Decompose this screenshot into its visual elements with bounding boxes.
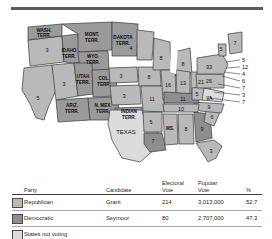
state-minnesota <box>137 30 154 60</box>
northeast-callout-values: 5 12 4 6 7 3 7 <box>242 57 248 105</box>
cell-percent-democratic: 47.3 <box>246 215 257 221</box>
cell-percent-republican: 52.7 <box>246 199 257 205</box>
vote-label-connecticut: 6 <box>242 78 245 84</box>
state-kansas <box>110 85 141 105</box>
vote-label-kansas: 3 <box>123 93 126 99</box>
vote-label-new-york: 33 <box>206 64 212 70</box>
vote-label-massachusetts: 12 <box>242 64 248 70</box>
vote-label-alabama: 8 <box>185 126 188 132</box>
vote-label-nevada: 3 <box>63 81 66 87</box>
vote-label-north-carolina: 9 <box>208 104 211 110</box>
state-nebraska <box>109 67 138 83</box>
label-dakota-territory-line1: DAKOTA <box>113 35 133 40</box>
cell-candidate-seymour: Seymour <box>106 215 129 221</box>
column-header-party: Party <box>24 187 37 193</box>
column-header-popular-vote-line2: Vote <box>198 187 217 193</box>
cell-popular-democratic: 2,707,000 <box>198 215 224 221</box>
vote-label-west-virginia: 5 <box>196 91 199 97</box>
cell-electoral-democratic: 80 <box>162 215 168 221</box>
state-new-york <box>197 54 228 74</box>
cell-states-not-voting: States not voting <box>24 231 67 237</box>
vote-label-kentucky: 11 <box>180 96 186 102</box>
vote-label-illinois: 16 <box>165 82 171 88</box>
vote-label-new-jersey: 7 <box>242 85 245 91</box>
label-wyoming-territory-line1: WYO. <box>87 54 99 59</box>
label-texas: TEXAS <box>116 129 136 135</box>
vote-label-oregon: 3 <box>46 47 49 53</box>
vote-label-new-hampshire: 5 <box>242 57 245 63</box>
column-header-electoral-vote: Electoral Vote <box>162 180 184 193</box>
cell-electoral-republican: 214 <box>162 199 172 205</box>
vote-label-arkansas: 5 <box>150 119 153 125</box>
column-header-electoral-vote-line2: Vote <box>162 187 184 193</box>
label-dakota-territory-line2: TERR. <box>116 41 130 46</box>
label-indian-territory-line2: TERR. <box>122 115 136 120</box>
column-header-electoral-vote-line1: Electoral <box>162 180 184 186</box>
column-header-percent: % <box>246 187 251 193</box>
vote-label-tennessee: 10 <box>178 106 184 112</box>
vote-label-maine: 7 <box>234 40 237 46</box>
table-row-democratic: Democratic Seymour 80 2,707,000 47.3 <box>12 211 262 226</box>
label-colorado-territory-line2: TERR. <box>97 82 111 87</box>
cell-candidate-grant: Grant <box>106 199 121 205</box>
vote-label-rhode-island: 4 <box>242 71 245 77</box>
label-utah-territory-line2: TERR. <box>76 80 90 85</box>
legend-swatch-democratic <box>12 214 23 224</box>
label-wyoming-territory-line2: TERR. <box>86 60 100 65</box>
label-montana-territory-line2: TERR. <box>85 38 99 43</box>
label-new-mexico-territory-line1: N. MEX. <box>94 103 111 108</box>
vote-label-nebraska: 3 <box>120 73 123 79</box>
label-indian-territory-line1: INDIAN <box>121 109 138 114</box>
state-wisconsin <box>153 38 171 70</box>
vote-label-south-carolina: 6 <box>211 114 214 120</box>
vote-label-minnesota: 4 <box>130 45 133 51</box>
label-new-mexico-territory-line2: TERR. <box>96 109 110 114</box>
column-header-popular-vote: Popular Vote <box>198 180 217 193</box>
legend-swatch-not-voting <box>12 230 23 239</box>
label-idaho-territory-line2: TERR. <box>62 54 76 59</box>
vote-label-delaware: 3 <box>242 92 245 98</box>
vote-label-california: 5 <box>37 95 40 101</box>
column-header-candidate: Candidate <box>106 187 132 193</box>
vote-label-wisconsin: 8 <box>160 55 163 61</box>
vote-label-vermont: 5 <box>220 46 223 52</box>
vote-label-pennsylvania: 26 <box>206 78 212 84</box>
label-montana-territory-line1: MONT. <box>85 32 99 37</box>
vote-label-florida: 3 <box>210 148 213 154</box>
top-divider-rule <box>11 7 263 10</box>
vote-label-indiana: 13 <box>180 80 186 86</box>
table-row-not-voting: States not voting <box>12 227 262 239</box>
vote-label-louisiana: 7 <box>152 138 155 144</box>
cell-party-democratic: Democratic <box>24 215 53 221</box>
vote-label-maryland: 7 <box>242 99 245 105</box>
table-row-republican: Republican Grant 214 3,013,000 52.7 <box>12 195 262 210</box>
state-arkansas <box>143 112 162 132</box>
column-header-popular-vote-line1: Popular <box>198 180 217 186</box>
label-utah-territory-line1: UTAH <box>77 74 90 79</box>
results-table: Party Candidate Electoral Vote Popular V… <box>12 174 262 239</box>
state-california <box>22 65 56 120</box>
vote-label-ohio: 21 <box>198 79 204 85</box>
cell-popular-republican: 3,013,000 <box>198 199 224 205</box>
election-map: 3 5 3 4 8 8 3 8 16 13 21 3 11 5 7 8 9 3 … <box>0 12 272 167</box>
legend-swatch-republican <box>12 198 23 208</box>
label-arizona-territory-line2: TERR. <box>65 109 79 114</box>
label-mississippi: MS. <box>166 126 174 131</box>
table-header-row: Party Candidate Electoral Vote Popular V… <box>12 174 262 194</box>
label-arizona-territory-line1: ARIZ. <box>66 103 78 108</box>
vote-label-georgia: 9 <box>201 126 204 132</box>
vote-label-michigan: 8 <box>182 61 185 67</box>
label-washington-territory-line2: TERR. <box>37 33 51 38</box>
vote-label-missouri: 11 <box>149 96 155 102</box>
label-colorado-territory-line1: COL. <box>99 76 110 81</box>
label-idaho-territory-line1: IDAHO <box>62 48 77 53</box>
vote-label-iowa: 8 <box>148 74 151 80</box>
cell-party-republican: Republican <box>24 199 53 205</box>
